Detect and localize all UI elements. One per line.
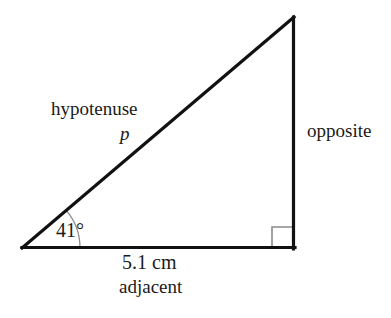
label-adjacent: adjacent xyxy=(119,277,182,296)
right-angle-marker-icon xyxy=(272,227,294,249)
triangle-diagram: hypotenuse p opposite 41° 5.1 cm adjacen… xyxy=(0,0,391,318)
side-hypotenuse-line xyxy=(22,17,294,248)
label-adjacent-length: 5.1 cm xyxy=(122,252,176,272)
triangle-graphic xyxy=(0,0,391,318)
label-angle-measure: 41° xyxy=(56,220,84,240)
label-hypotenuse-variable: p xyxy=(120,124,130,143)
label-hypotenuse: hypotenuse xyxy=(51,99,138,118)
label-opposite: opposite xyxy=(307,121,371,140)
